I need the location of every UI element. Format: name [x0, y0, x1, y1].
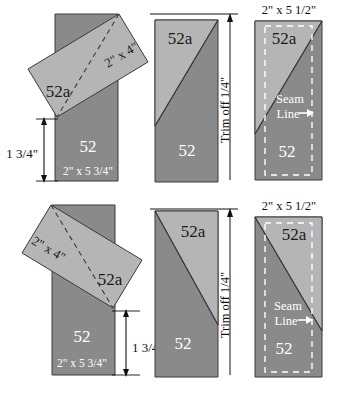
- dimension-offset-label: 1 3/4": [6, 146, 38, 161]
- accent-label: 52a: [272, 29, 297, 48]
- step-r2c2-trim-excess: Trim off 1/4" 52a 52: [150, 197, 242, 394]
- step-r1c1-place-accent-strip: 1 3/4" 52a 2" x 4" 52 2" x 5 3/4": [0, 0, 150, 197]
- base-size-label: 2" x 5 3/4": [57, 357, 107, 369]
- base-label: 52: [279, 142, 296, 161]
- step-r2c3-finished-unit: 2" x 5 1/2" Seam Line 52a 52: [242, 197, 338, 394]
- base-label: 52: [80, 137, 97, 156]
- step-r2c1-place-accent-strip: 1 3/4" 2" x 4" 52a 52 2" x 5 3/4": [0, 197, 150, 394]
- base-label: 52: [276, 339, 293, 358]
- seam-note-line2: Line: [275, 314, 298, 328]
- step-r1c3-finished-unit: 2" x 5 1/2" Seam Line 52a 52: [242, 0, 338, 197]
- accent-label: 52a: [46, 82, 71, 101]
- trim-note-label: Trim off 1/4": [218, 272, 232, 338]
- base-label: 52: [74, 327, 91, 346]
- seam-note-line1: Seam: [276, 92, 304, 106]
- base-label: 52: [179, 141, 196, 160]
- accent-label: 52a: [168, 29, 193, 48]
- step-r1c2-trim-excess: Trim off 1/4" 52a 52: [150, 0, 242, 197]
- seam-note-line1: Seam: [274, 299, 302, 313]
- finished-size-label: 2" x 5 1/2": [262, 199, 316, 213]
- accent-label: 52a: [282, 225, 307, 244]
- base-size-label: 2" x 5 3/4": [63, 165, 113, 177]
- base-label: 52: [175, 334, 192, 353]
- trim-note-label: Trim off 1/4": [218, 77, 232, 143]
- finished-size-label: 2" x 5 1/2": [262, 3, 316, 17]
- seam-note-line2: Line: [277, 107, 300, 121]
- accent-label: 52a: [181, 222, 206, 241]
- accent-label: 52a: [98, 270, 123, 289]
